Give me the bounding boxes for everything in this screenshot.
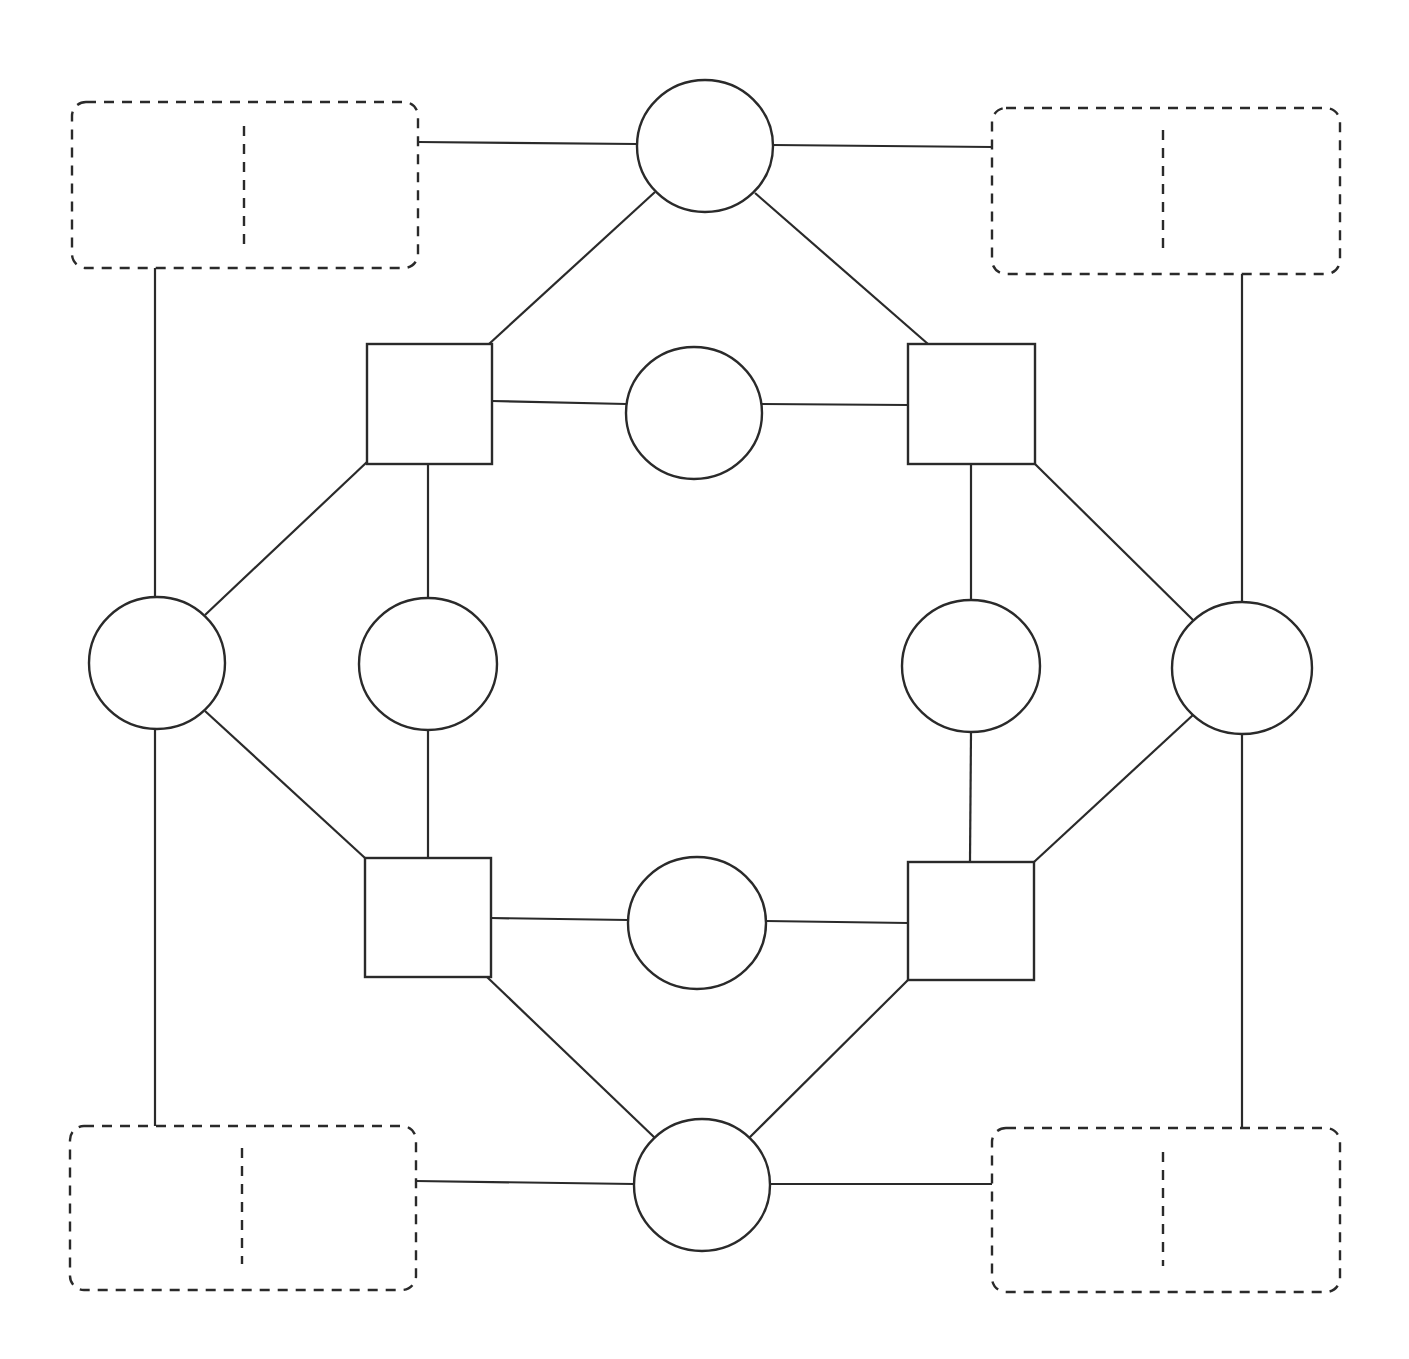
connector-lines <box>155 142 1242 1184</box>
connector-line <box>1035 464 1193 620</box>
connector-line <box>416 1181 634 1184</box>
circle-left <box>89 597 225 729</box>
connector-line <box>491 918 628 920</box>
square-bottom-right <box>908 862 1034 980</box>
connector-line <box>489 192 655 344</box>
inner-circle-top <box>626 347 762 479</box>
connector-line <box>1034 715 1193 862</box>
connector-line <box>418 142 637 144</box>
connector-line <box>205 462 367 615</box>
inner-circle-left <box>359 598 497 730</box>
connector-line <box>766 921 908 923</box>
square-bottom-left <box>365 858 491 977</box>
box-top-right <box>992 108 1340 274</box>
connector-line <box>970 732 971 862</box>
network-diagram <box>0 0 1409 1359</box>
circle-top <box>637 80 773 212</box>
dashed-box-border <box>992 108 1340 274</box>
connector-line <box>762 404 908 405</box>
box-bottom-right <box>992 1128 1340 1292</box>
connector-line <box>487 977 655 1138</box>
inner-circle-right <box>902 600 1040 732</box>
box-top-left <box>72 102 418 268</box>
box-bottom-left <box>70 1126 416 1290</box>
dashed-boxes <box>70 102 1340 1292</box>
connector-line <box>773 145 992 147</box>
square-top-right <box>908 344 1035 464</box>
circle-right <box>1172 602 1312 734</box>
connector-line <box>492 401 626 404</box>
circle-bottom <box>634 1119 770 1251</box>
connector-line <box>205 711 365 858</box>
dashed-box-border <box>992 1128 1340 1292</box>
connector-line <box>755 193 928 344</box>
inner-circle-bottom <box>628 857 766 989</box>
square-top-left <box>367 344 492 464</box>
connector-line <box>749 980 908 1138</box>
